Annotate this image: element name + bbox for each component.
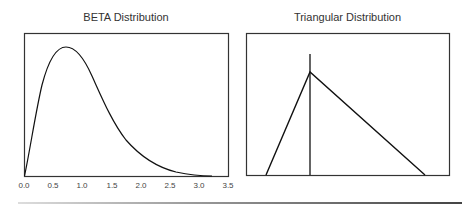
x-tick: 0.5: [47, 181, 58, 190]
x-tick: 1.0: [76, 181, 87, 190]
beta-curve: [25, 47, 213, 176]
beta-plot-frame: [25, 34, 229, 177]
x-tick: 2.0: [135, 181, 146, 190]
triangular-curve: [266, 72, 425, 175]
x-tick: 2.5: [164, 181, 175, 190]
charts-canvas: [0, 0, 475, 205]
x-tick: 3.0: [193, 181, 204, 190]
triangular-plot-frame: [247, 34, 450, 176]
bottom-divider: [18, 202, 462, 204]
x-tick: 1.5: [106, 181, 117, 190]
x-tick: 3.5: [222, 181, 233, 190]
x-tick: 0.0: [18, 181, 29, 190]
